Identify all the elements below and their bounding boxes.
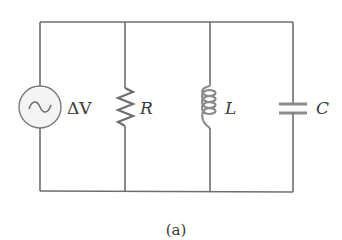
resistor-label: R	[139, 98, 153, 118]
circuit-diagram: ΔV R L C (a)	[0, 0, 342, 240]
ac-source-branch: ΔV	[19, 22, 92, 191]
source-label: ΔV	[67, 98, 92, 118]
inductor-icon	[202, 86, 216, 128]
resistor-branch: R	[118, 22, 153, 191]
bottom-rail-wire	[40, 191, 293, 192]
inductor-label: L	[224, 98, 236, 118]
figure-caption: (a)	[166, 221, 187, 239]
capacitor-branch: C	[279, 22, 329, 192]
resistor-icon	[118, 88, 133, 126]
inductor-branch: L	[202, 22, 236, 191]
capacitor-label: C	[316, 98, 329, 118]
